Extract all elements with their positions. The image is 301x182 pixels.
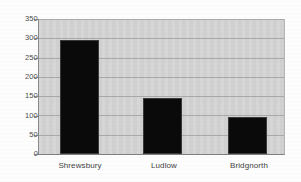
bar-ludlow: [143, 98, 182, 154]
bar-chart: 350 300 250 200 150 100 50 0 Shrewsbury …: [0, 0, 301, 182]
gridline-300: [39, 38, 284, 39]
y-axis-label-0: 0: [0, 150, 38, 158]
x-axis-label-bridgnorth: Bridgnorth: [198, 161, 300, 171]
y-axis-label-300: 300: [0, 34, 38, 42]
gridline-350: [39, 19, 284, 20]
y-axis-label-150: 150: [0, 92, 38, 100]
y-axis-label-250: 250: [0, 54, 38, 62]
y-axis-label-100: 100: [0, 112, 38, 120]
y-axis-label-200: 200: [0, 73, 38, 81]
y-axis-label-350: 350: [0, 15, 38, 23]
y-axis-label-50: 50: [0, 131, 38, 139]
plot-area: [38, 19, 285, 155]
bar-bridgnorth: [228, 117, 267, 154]
bar-shrewsbury: [60, 40, 99, 154]
